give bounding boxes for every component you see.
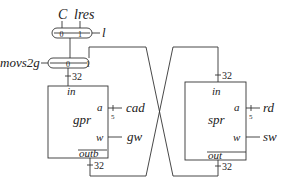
spr-out-width: 32 xyxy=(222,161,232,172)
wire-spr-in xyxy=(173,47,218,82)
input-c-label: C xyxy=(58,7,68,22)
input-lres-label: lres xyxy=(74,7,95,22)
mux-top: 0 1 xyxy=(52,28,92,39)
spr-name: spr xyxy=(208,112,226,127)
wire-feedback-spr xyxy=(89,47,146,58)
mux-bottom: 0 1 xyxy=(48,58,90,69)
spr-block: in a spr w out xyxy=(185,82,246,161)
gpr-in-width: 32 xyxy=(72,71,82,82)
select-movs2g-label: movs2g xyxy=(0,55,40,70)
spr-port-in: in xyxy=(212,85,221,97)
mux-top-in1: 1 xyxy=(78,30,82,39)
gpr-block: in a gpr w outb xyxy=(48,85,108,159)
gpr-name: gpr xyxy=(73,112,92,127)
signal-cad: cad xyxy=(126,100,145,115)
spr-a-width: 5 xyxy=(249,113,253,121)
spr-in-width: 32 xyxy=(222,70,232,81)
spr-port-a: a xyxy=(234,101,240,113)
gpr-port-w: w xyxy=(96,131,104,143)
spr-port-out: out xyxy=(208,149,223,161)
gpr-a-width: 5 xyxy=(111,113,115,121)
register-file-diagram: C lres 0 1 l movs2g 0 1 32 in a gpr w ou… xyxy=(0,0,287,185)
mux-bottom-in1: 1 xyxy=(86,60,90,69)
signal-gw: gw xyxy=(127,129,143,144)
signal-rd: rd xyxy=(263,100,275,115)
gpr-port-out: outb xyxy=(79,147,99,159)
mux-bottom-in0: 0 xyxy=(66,60,70,69)
gpr-out-width: 32 xyxy=(94,160,104,171)
spr-port-w: w xyxy=(233,131,241,143)
mux-top-in0: 0 xyxy=(60,30,64,39)
gpr-port-in: in xyxy=(67,85,76,97)
select-l-label: l xyxy=(102,25,106,40)
gpr-port-a: a xyxy=(97,101,103,113)
signal-sw: sw xyxy=(263,129,277,144)
wire-spr-out xyxy=(173,160,218,176)
